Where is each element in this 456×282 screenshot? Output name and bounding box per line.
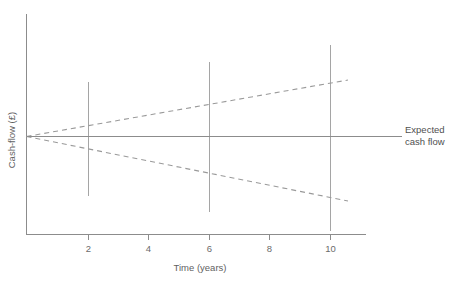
upper-bound-line bbox=[27, 80, 349, 137]
x-tick-label-6: 6 bbox=[207, 243, 212, 254]
chart-page: 2 4 6 8 10 Time (years) Cash-flow (£) Ex… bbox=[0, 0, 456, 282]
x-tick-label-2: 2 bbox=[86, 243, 91, 254]
x-tick-label-10: 10 bbox=[325, 243, 336, 254]
cash-flow-uncertainty-chart: 2 4 6 8 10 Time (years) Cash-flow (£) Ex… bbox=[0, 0, 456, 282]
expected-cash-flow-label-line-1: Expected bbox=[405, 124, 445, 135]
x-axis-title: Time (years) bbox=[174, 262, 227, 273]
x-tick-label-8: 8 bbox=[267, 243, 272, 254]
x-tick-label-4: 4 bbox=[146, 243, 151, 254]
x-axis-ticks bbox=[89, 235, 331, 240]
expected-cash-flow-label-line-2: cash flow bbox=[405, 136, 445, 147]
lower-bound-line bbox=[27, 137, 349, 202]
error-bar-group bbox=[89, 45, 331, 231]
y-axis-title: Cash-flow (£) bbox=[6, 112, 17, 169]
